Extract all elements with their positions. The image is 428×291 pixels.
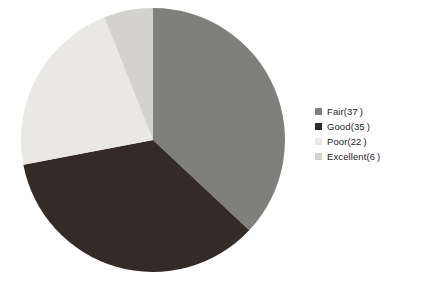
legend-item-poor[interactable]: Poor(22 ) bbox=[315, 134, 428, 149]
legend-label-excellent: Excellent(6 ) bbox=[327, 149, 380, 164]
pie-svg bbox=[0, 0, 300, 291]
legend-swatch-excellent-icon bbox=[315, 153, 322, 160]
legend-swatch-poor-icon bbox=[315, 138, 322, 145]
legend-swatch-fair-icon bbox=[315, 108, 322, 115]
legend-label-good: Good(35 ) bbox=[327, 119, 370, 134]
legend-swatch-good-icon bbox=[315, 123, 322, 130]
pie-chart-figure: Fair(37 ) Good(35 ) Poor(22 ) Excellent(… bbox=[0, 0, 428, 291]
pie-plot-area bbox=[0, 0, 300, 291]
chart-legend: Fair(37 ) Good(35 ) Poor(22 ) Excellent(… bbox=[315, 104, 428, 164]
legend-label-poor: Poor(22 ) bbox=[327, 134, 367, 149]
legend-item-fair[interactable]: Fair(37 ) bbox=[315, 104, 428, 119]
pie-slice-group bbox=[21, 8, 285, 272]
legend-item-good[interactable]: Good(35 ) bbox=[315, 119, 428, 134]
legend-item-excellent[interactable]: Excellent(6 ) bbox=[315, 149, 428, 164]
legend-label-fair: Fair(37 ) bbox=[327, 104, 363, 119]
